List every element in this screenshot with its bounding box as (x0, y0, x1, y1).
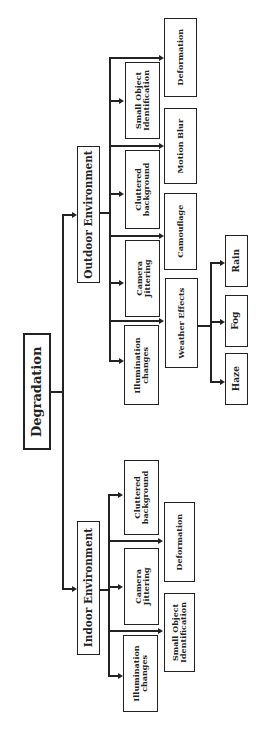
node-rain: Rain (225, 235, 248, 287)
connector (108, 494, 118, 496)
connector (109, 282, 119, 284)
node-indoor-small-object: Small Object Identification (164, 593, 195, 672)
node-indoor-environment: Indoor Environment (77, 521, 100, 655)
node-label: Camouflage (176, 205, 184, 258)
connector (109, 57, 159, 59)
connector (108, 540, 158, 542)
connector (109, 360, 119, 362)
connector (108, 630, 158, 632)
connector (108, 675, 118, 677)
node-indoor-camera-jittering: Camera Jittering (124, 548, 159, 625)
connector (108, 586, 118, 588)
node-outdoor-camouflage: Camouflage (164, 193, 197, 270)
connector (62, 588, 72, 590)
node-outdoor-cluttered: Cluttered background (125, 150, 160, 229)
node-label: Small Object Identification (171, 602, 188, 663)
node-label: Motion Blur (176, 119, 184, 174)
arrow-icon (118, 492, 123, 498)
node-label: Illumination changes (133, 337, 150, 393)
node-outdoor-camera-jittering: Camera Jittering (125, 240, 160, 317)
node-haze: Haze (225, 353, 248, 405)
node-label: Camera Jittering (133, 568, 150, 606)
node-outdoor-small-object: Small Object Identification (125, 62, 160, 139)
arrow-icon (119, 191, 124, 197)
connector (210, 381, 220, 383)
connector (109, 235, 159, 237)
node-label: Deformation (176, 29, 184, 86)
connector (62, 214, 72, 216)
node-label: Weather Effects (177, 287, 185, 358)
node-label: Illumination changes (132, 645, 149, 701)
arrow-icon (158, 628, 163, 634)
node-label: Degradation (30, 346, 44, 437)
node-label: Small Object Identification (134, 70, 151, 131)
connector (210, 321, 220, 323)
node-outdoor-deformation: Deformation (164, 18, 197, 97)
node-outdoor-illumination: Illumination changes (124, 325, 159, 405)
node-outdoor-weather-effects: Weather Effects (165, 278, 198, 368)
node-label: Cluttered background (133, 471, 150, 525)
arrow-icon (119, 98, 124, 104)
node-label: Outdoor Environment (83, 150, 94, 278)
connector (109, 100, 119, 102)
node-indoor-deformation: Deformation (164, 502, 195, 582)
connector (109, 145, 159, 147)
arrow-icon (159, 318, 164, 324)
node-label: Rain (232, 249, 241, 272)
arrow-icon (119, 280, 124, 286)
node-degradation: Degradation (23, 333, 51, 450)
connector (109, 57, 111, 361)
connector (109, 320, 159, 322)
node-fog: Fog (225, 295, 248, 347)
node-label: Deformation (175, 514, 183, 571)
node-label: Fog (232, 312, 241, 330)
node-label: Camera Jittering (134, 260, 151, 298)
node-label: Haze (232, 366, 241, 391)
node-indoor-cluttered: Cluttered background (124, 460, 159, 535)
connector (62, 214, 64, 589)
node-label: Indoor Environment (83, 528, 94, 647)
connector (109, 193, 119, 195)
arrow-icon (158, 538, 163, 544)
node-outdoor-environment: Outdoor Environment (77, 146, 100, 283)
connector (108, 494, 110, 676)
connector (198, 325, 210, 327)
node-label: Cluttered background (134, 163, 151, 217)
node-indoor-illumination: Illumination changes (123, 635, 158, 712)
connector (210, 262, 220, 264)
node-outdoor-motion-blur: Motion Blur (164, 108, 197, 184)
arrow-icon (118, 584, 123, 590)
